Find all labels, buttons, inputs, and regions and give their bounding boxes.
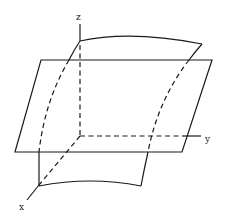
horizontal-plane <box>15 60 212 152</box>
surface-left-edge-hidden <box>39 60 69 152</box>
x-axis-visible <box>27 185 39 200</box>
y-axis-label: y <box>204 134 211 144</box>
x-axis-hidden <box>39 136 80 185</box>
surface-right-edge-upper <box>189 44 202 60</box>
surface-right-edge-lower <box>141 152 148 186</box>
z-axis-label: z <box>76 12 81 22</box>
surface-left-edge-upper <box>69 41 80 60</box>
surface-bottom-edge <box>39 181 141 186</box>
diagram-canvas: z y x <box>0 0 227 223</box>
surface-right-edge-hidden <box>148 60 189 152</box>
x-axis-label: x <box>19 202 24 212</box>
surface-top-edge <box>80 36 202 44</box>
